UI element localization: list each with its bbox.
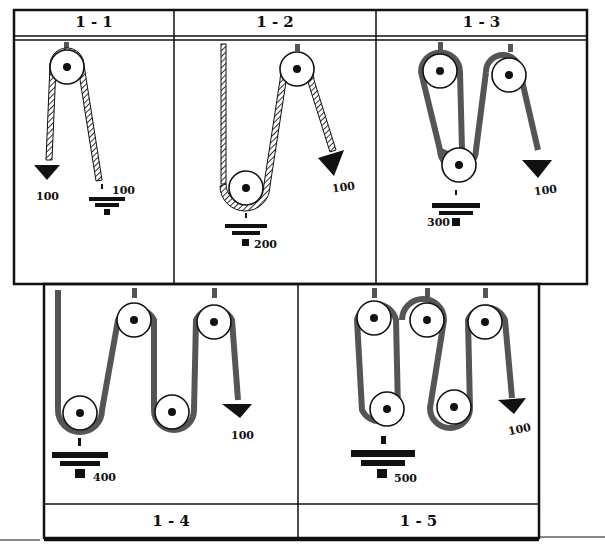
load-label-1-5: 500 <box>394 472 417 485</box>
panel-1-4-diagram <box>52 288 252 478</box>
load-label-1-3: 300 <box>427 216 450 229</box>
effort-label-1-4: 100 <box>231 429 254 442</box>
effort-label-1-1: 100 <box>36 190 59 203</box>
load-label-1-1: 100 <box>112 184 135 197</box>
load-label-1-4: 400 <box>93 471 116 484</box>
panel-title-1-4: 1 - 4 <box>44 512 298 530</box>
panel-1-5-diagram <box>351 288 526 478</box>
panel-title-1-5: 1 - 5 <box>298 512 539 530</box>
panel-title-1-2: 1 - 2 <box>174 13 376 31</box>
panel-title-1-1: 1 - 1 <box>14 13 174 31</box>
panel-1-2-diagram <box>220 44 344 246</box>
panel-title-1-3: 1 - 3 <box>376 13 587 31</box>
panel-1-3-diagram <box>421 42 552 226</box>
top-row-frame <box>14 10 587 284</box>
pulley-diagram <box>0 0 605 549</box>
load-label-1-2: 200 <box>254 238 277 251</box>
